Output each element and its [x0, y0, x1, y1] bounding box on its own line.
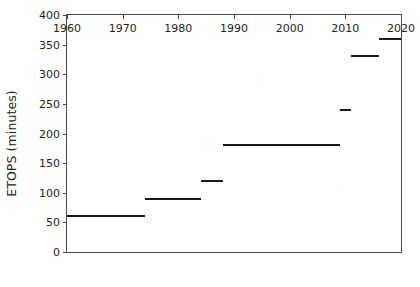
y-tick-label: 100 — [39, 186, 60, 199]
y-tick-label: 50 — [46, 216, 60, 229]
y-tick-mark — [63, 193, 67, 194]
y-tick-mark — [63, 252, 67, 253]
x-tick-mark — [345, 15, 346, 19]
y-tick-label: 150 — [39, 157, 60, 170]
x-tick-label: 1970 — [109, 22, 137, 35]
step-segment — [67, 215, 145, 217]
y-tick-mark — [63, 134, 67, 135]
y-tick-mark — [63, 74, 67, 75]
y-tick-mark — [63, 163, 67, 164]
x-tick-label: 2010 — [331, 22, 359, 35]
x-tick-mark — [178, 15, 179, 19]
x-tick-label: 1960 — [53, 22, 81, 35]
step-segment — [223, 144, 340, 146]
y-tick-label: 200 — [39, 127, 60, 140]
x-tick-mark — [290, 15, 291, 19]
x-tick-mark — [401, 15, 402, 19]
y-tick-label: 300 — [39, 68, 60, 81]
y-axis-title: ETOPS (minutes) — [0, 0, 22, 287]
x-tick-mark — [123, 15, 124, 19]
y-tick-label: 400 — [39, 9, 60, 22]
y-tick-label: 250 — [39, 97, 60, 110]
y-tick-mark — [63, 45, 67, 46]
etops-step-chart: ETOPS (minutes) 050100150200250300350400… — [0, 0, 420, 287]
step-segment — [379, 38, 401, 40]
step-segment — [351, 55, 379, 57]
y-tick-label: 0 — [53, 246, 60, 259]
step-segment — [145, 198, 201, 200]
x-tick-label: 1990 — [220, 22, 248, 35]
x-tick-mark — [234, 15, 235, 19]
step-segment — [340, 109, 351, 111]
y-tick-mark — [63, 222, 67, 223]
x-tick-label: 1980 — [164, 22, 192, 35]
x-tick-label: 2020 — [387, 22, 415, 35]
step-segment — [201, 180, 223, 182]
x-tick-label: 2000 — [276, 22, 304, 35]
y-tick-mark — [63, 104, 67, 105]
y-tick-label: 350 — [39, 38, 60, 51]
x-tick-mark — [67, 15, 68, 19]
plot-area: 050100150200250300350400 196019701980199… — [66, 14, 402, 253]
